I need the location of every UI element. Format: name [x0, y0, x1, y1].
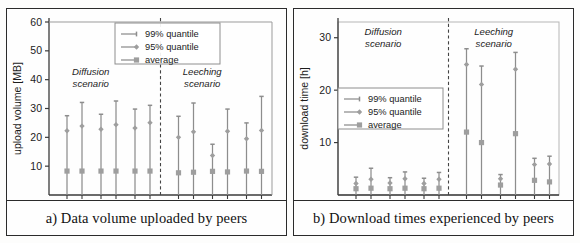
panel-a: 102030405060upload volume [MB]Diffusions…: [6, 8, 287, 236]
legend-label: 99% quantile: [145, 29, 199, 39]
panel-b: 102030download time [h]Diffusionscenario…: [293, 8, 574, 236]
average-marker: [464, 129, 469, 134]
average-marker: [547, 179, 552, 184]
data-point-group: [113, 101, 118, 195]
chart-a-svg: 102030405060upload volume [MB]Diffusions…: [7, 9, 286, 202]
quantile-95-marker: [479, 82, 484, 87]
data-point-group: [244, 123, 249, 195]
quantile-95-marker: [191, 129, 196, 134]
average-marker: [191, 170, 196, 175]
quantile-95-marker: [176, 135, 181, 140]
data-point-group: [479, 66, 484, 195]
legend-label: 95% quantile: [368, 107, 422, 117]
data-point-group: [402, 172, 407, 195]
chart-b-svg: 102030download time [h]Diffusionscenario…: [294, 9, 573, 202]
y-tick-label: 30: [319, 31, 331, 43]
data-point-group: [436, 172, 441, 195]
data-point-group: [353, 177, 358, 195]
scenario-label: scenario: [476, 38, 513, 49]
data-point-group: [79, 102, 84, 195]
average-marker: [421, 186, 426, 191]
average-marker: [64, 168, 69, 173]
legend: 99% quantile95% quantileaverage: [338, 88, 443, 130]
y-tick-label: 20: [30, 131, 42, 143]
average-marker: [147, 168, 152, 173]
data-point-group: [210, 144, 215, 195]
quantile-95-marker: [259, 128, 264, 133]
quantile-95-marker: [147, 120, 152, 125]
quantile-95-marker: [132, 125, 137, 130]
quantile-95-marker: [402, 176, 407, 181]
data-point-group: [64, 116, 69, 195]
average-marker: [132, 168, 137, 173]
average-marker: [225, 169, 230, 174]
legend-label: 99% quantile: [368, 94, 422, 104]
average-marker: [498, 182, 503, 187]
scenario-label: scenario: [184, 78, 221, 89]
y-axis-title: upload volume [MB]: [11, 62, 23, 155]
data-point-group: [176, 116, 181, 195]
data-point-group: [532, 158, 537, 195]
average-marker: [259, 169, 264, 174]
legend: 99% quantile95% quantileaverage: [115, 23, 220, 65]
scenario-label: Leeching: [183, 66, 223, 77]
average-marker: [176, 170, 181, 175]
data-point-group: [98, 114, 103, 195]
y-tick-label: 30: [30, 102, 42, 114]
y-tick-label: 50: [30, 44, 42, 56]
average-marker: [387, 186, 392, 191]
quantile-95-marker: [464, 62, 469, 67]
quantile-95-marker: [436, 177, 441, 182]
quantile-95-marker: [368, 177, 373, 182]
y-tick-label: 60: [30, 16, 42, 28]
data-point-group: [547, 156, 552, 195]
legend-label: 95% quantile: [145, 42, 199, 52]
average-marker: [402, 186, 407, 191]
data-point-group: [368, 168, 373, 195]
quantile-95-marker: [498, 176, 503, 181]
y-tick-label: 20: [319, 84, 331, 96]
figure-root: 102030405060upload volume [MB]Diffusions…: [0, 0, 580, 243]
quantile-95-marker: [387, 180, 392, 185]
quantile-95-marker: [421, 181, 426, 186]
average-marker: [532, 178, 537, 183]
y-tick-label: 10: [30, 160, 42, 172]
data-point-group: [225, 109, 230, 195]
scenario-label: Leeching: [474, 26, 514, 37]
quantile-95-marker: [532, 162, 537, 167]
legend-marker-average: [357, 122, 362, 127]
quantile-95-marker: [64, 128, 69, 133]
average-marker: [113, 168, 118, 173]
panel-a-caption: a) Data volume uploaded by peers: [7, 200, 286, 235]
average-marker: [210, 169, 215, 174]
legend-label: average: [368, 120, 402, 130]
average-marker: [513, 131, 518, 136]
data-point-group: [259, 96, 264, 195]
panel-b-caption: b) Download times experienced by peers: [294, 200, 573, 235]
average-marker: [98, 168, 103, 173]
y-tick-label: 40: [30, 73, 42, 85]
quantile-95-marker: [98, 127, 103, 132]
data-point-group: [464, 49, 469, 195]
scenario-label: Diffusion: [72, 66, 109, 77]
average-marker: [479, 140, 484, 145]
quantile-95-marker: [113, 122, 118, 127]
average-marker: [436, 186, 441, 191]
data-point-group: [387, 178, 392, 195]
legend-label: average: [145, 55, 179, 65]
scenario-label: scenario: [365, 38, 402, 49]
data-point-group: [421, 178, 426, 195]
data-point-group: [132, 109, 137, 195]
data-point-group: [513, 52, 518, 195]
data-point-group: [147, 105, 152, 195]
quantile-95-marker: [225, 129, 230, 134]
average-marker: [244, 168, 249, 173]
quantile-95-marker: [547, 161, 552, 166]
average-marker: [79, 168, 84, 173]
quantile-95-marker: [210, 153, 215, 158]
average-marker: [368, 186, 373, 191]
data-point-group: [191, 103, 196, 195]
quantile-95-marker: [79, 123, 84, 128]
y-tick-label: 10: [319, 136, 331, 148]
quantile-95-marker: [244, 136, 249, 141]
